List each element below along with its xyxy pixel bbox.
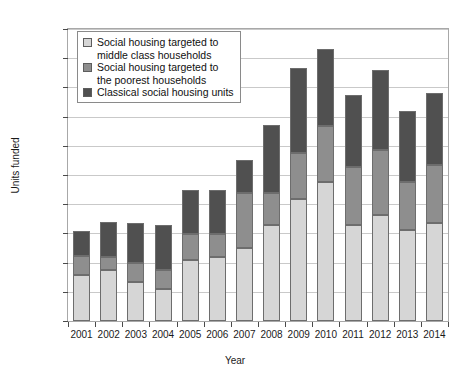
x-tick-label: 2005 bbox=[179, 329, 201, 340]
bar-chart: Units funded 05001,0001,5002,0002,5003,0… bbox=[0, 0, 470, 381]
x-tick-label: 2011 bbox=[342, 329, 364, 340]
bar-segment[interactable] bbox=[263, 125, 280, 192]
bar-segment[interactable] bbox=[290, 199, 307, 321]
x-tick-label: 2013 bbox=[396, 329, 418, 340]
x-tick-mark bbox=[231, 322, 232, 327]
x-axis-title-label: Year bbox=[225, 355, 245, 366]
bar-segment[interactable] bbox=[100, 270, 117, 321]
x-tick-mark bbox=[448, 322, 449, 327]
legend-item[interactable]: Social housing targeted to middle class … bbox=[83, 36, 234, 61]
bar-segment[interactable] bbox=[182, 260, 199, 321]
bar-segment[interactable] bbox=[399, 182, 416, 230]
bar-segment[interactable] bbox=[236, 193, 253, 248]
bar-segment[interactable] bbox=[426, 165, 443, 223]
bar-segment[interactable] bbox=[182, 190, 199, 234]
bar-segment[interactable] bbox=[236, 160, 253, 192]
bar-segment[interactable] bbox=[182, 234, 199, 259]
bar-segment[interactable] bbox=[209, 234, 226, 256]
x-tick-label: 2004 bbox=[152, 329, 174, 340]
x-tick-mark bbox=[339, 322, 340, 327]
y-axis-title: Units funded bbox=[6, 0, 24, 330]
x-tick-mark bbox=[421, 322, 422, 327]
bar-segment[interactable] bbox=[127, 263, 144, 282]
bar-segment[interactable] bbox=[263, 193, 280, 226]
x-tick-mark bbox=[367, 322, 368, 327]
bar-stack[interactable] bbox=[263, 29, 280, 321]
bar-stack[interactable] bbox=[345, 29, 362, 321]
legend-item[interactable]: Classical social housing units bbox=[83, 86, 234, 99]
x-tick-label: 2008 bbox=[260, 329, 282, 340]
legend-swatch-icon bbox=[83, 63, 92, 72]
x-tick-mark bbox=[149, 322, 150, 327]
bar-segment[interactable] bbox=[100, 222, 117, 257]
bar-segment[interactable] bbox=[263, 225, 280, 321]
bar-segment[interactable] bbox=[127, 223, 144, 263]
bar-stack[interactable] bbox=[399, 29, 416, 321]
legend-item[interactable]: Social housing targeted to the poorest h… bbox=[83, 61, 234, 86]
bar-stack[interactable] bbox=[372, 29, 389, 321]
bar-segment[interactable] bbox=[399, 111, 416, 182]
bar-segment[interactable] bbox=[236, 248, 253, 321]
legend-item-label: Social housing targeted to the poorest h… bbox=[97, 61, 218, 86]
bar-segment[interactable] bbox=[73, 275, 90, 321]
x-tick-label: 2006 bbox=[206, 329, 228, 340]
bar-segment[interactable] bbox=[426, 93, 443, 165]
bar-segment[interactable] bbox=[317, 126, 334, 182]
legend-item-label: Social housing targeted to middle class … bbox=[97, 36, 218, 61]
bar-segment[interactable] bbox=[290, 68, 307, 154]
bar-segment[interactable] bbox=[372, 70, 389, 151]
bar-stack[interactable] bbox=[426, 29, 443, 321]
x-tick-mark bbox=[285, 322, 286, 327]
bar-segment[interactable] bbox=[345, 95, 362, 167]
bar-segment[interactable] bbox=[100, 257, 117, 270]
bar-segment[interactable] bbox=[155, 225, 172, 270]
x-tick-mark bbox=[177, 322, 178, 327]
bar-segment[interactable] bbox=[317, 182, 334, 321]
bar-segment[interactable] bbox=[73, 231, 90, 256]
bar-segment[interactable] bbox=[372, 150, 389, 215]
bar-stack[interactable] bbox=[290, 29, 307, 321]
x-tick-label: 2014 bbox=[423, 329, 445, 340]
bar-segment[interactable] bbox=[155, 289, 172, 321]
bar-segment[interactable] bbox=[209, 190, 226, 234]
legend-swatch-icon bbox=[83, 88, 92, 97]
x-tick-label: 2003 bbox=[125, 329, 147, 340]
x-tick-label: 2012 bbox=[369, 329, 391, 340]
bar-segment[interactable] bbox=[345, 225, 362, 321]
x-tick-mark bbox=[258, 322, 259, 327]
bar-segment[interactable] bbox=[290, 153, 307, 199]
legend-item-label: Classical social housing units bbox=[97, 86, 234, 99]
x-tick-label: 2001 bbox=[70, 329, 92, 340]
x-tick-label: 2007 bbox=[233, 329, 255, 340]
bar-segment[interactable] bbox=[372, 215, 389, 321]
bar-stack[interactable] bbox=[317, 29, 334, 321]
x-tick-label: 2009 bbox=[288, 329, 310, 340]
x-tick-mark bbox=[68, 322, 69, 327]
chart-legend: Social housing targeted to middle class … bbox=[77, 31, 241, 103]
x-tick-mark bbox=[312, 322, 313, 327]
y-axis-title-label: Units funded bbox=[10, 137, 21, 193]
bar-segment[interactable] bbox=[127, 282, 144, 321]
bar-segment[interactable] bbox=[317, 49, 334, 125]
bar-segment[interactable] bbox=[73, 256, 90, 275]
x-axis-title: Year bbox=[0, 355, 470, 366]
x-tick-mark bbox=[394, 322, 395, 327]
x-tick-mark bbox=[122, 322, 123, 327]
bar-segment[interactable] bbox=[426, 223, 443, 321]
legend-swatch-icon bbox=[83, 38, 92, 47]
bar-segment[interactable] bbox=[155, 270, 172, 289]
x-tick-label: 2002 bbox=[98, 329, 120, 340]
bar-segment[interactable] bbox=[209, 257, 226, 321]
bar-segment[interactable] bbox=[399, 230, 416, 321]
x-tick-label: 2010 bbox=[315, 329, 337, 340]
x-tick-mark bbox=[204, 322, 205, 327]
x-tick-mark bbox=[95, 322, 96, 327]
bar-segment[interactable] bbox=[345, 167, 362, 225]
